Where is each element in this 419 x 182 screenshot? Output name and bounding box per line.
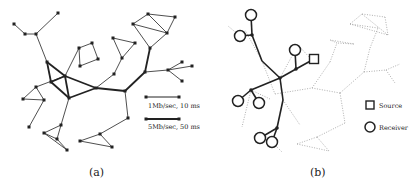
router-node xyxy=(113,73,116,76)
router-node xyxy=(28,126,31,129)
router-node xyxy=(57,12,60,15)
router-node xyxy=(64,75,67,78)
thick-link xyxy=(69,88,96,98)
dotted-link xyxy=(330,43,337,62)
thin-link xyxy=(14,24,25,34)
thick-link xyxy=(51,76,65,82)
router-node xyxy=(43,99,46,102)
legend-source-label: Source xyxy=(379,102,402,110)
network-diagram: 1Mb/sec, 10 ms 5Mb/sec, 50 ms (a) Source… xyxy=(0,0,419,182)
router-node xyxy=(22,98,25,101)
thick-link xyxy=(96,88,125,91)
router-node xyxy=(181,61,184,64)
caption-a: (a) xyxy=(89,166,104,179)
router-node xyxy=(147,13,150,16)
dotted-link xyxy=(297,137,317,144)
router-node xyxy=(35,33,38,36)
receiver-circle-icon xyxy=(255,133,266,144)
thin-link xyxy=(100,118,128,134)
square-icon xyxy=(366,101,374,109)
router-node xyxy=(60,124,63,127)
router-node xyxy=(112,37,115,40)
thin-link xyxy=(79,48,80,66)
router-node xyxy=(134,42,137,45)
dotted-link xyxy=(386,64,400,70)
junction-node xyxy=(249,88,253,92)
router-node xyxy=(97,58,100,61)
dotted-link xyxy=(362,14,385,17)
router-node xyxy=(99,133,102,136)
router-node xyxy=(191,65,194,68)
thin-link xyxy=(113,38,135,43)
dotted-link xyxy=(330,40,337,43)
router-node xyxy=(56,138,59,141)
thin-link xyxy=(36,13,58,34)
thin-link xyxy=(133,14,148,24)
dotted-link xyxy=(262,61,275,94)
thin-link xyxy=(80,134,100,141)
source-square-icon xyxy=(310,55,319,64)
thin-link xyxy=(23,99,44,100)
receiver-circle-icon xyxy=(267,137,278,148)
thin-link xyxy=(57,139,67,150)
thin-link xyxy=(80,59,98,66)
caption-b: (b) xyxy=(310,166,326,179)
router-node xyxy=(13,23,16,26)
thin-link xyxy=(150,33,167,48)
dotted-link xyxy=(317,137,329,151)
legend-receiver-label: Receiver xyxy=(379,124,409,132)
router-node xyxy=(78,47,81,50)
router-node xyxy=(181,80,184,83)
dotted-link xyxy=(312,62,330,88)
router-node xyxy=(91,42,94,45)
thick-link xyxy=(145,48,150,72)
router-node xyxy=(132,23,135,26)
multicast-tree-links xyxy=(238,15,314,142)
dotted-link xyxy=(350,24,378,28)
router-node xyxy=(127,117,130,120)
dotted-link xyxy=(350,14,362,24)
dotted-link xyxy=(275,88,312,94)
thin-link xyxy=(29,100,44,127)
dotted-link xyxy=(362,14,388,35)
router-node xyxy=(149,47,152,50)
dotted-link xyxy=(337,43,354,44)
circle-icon xyxy=(365,122,375,132)
router-node xyxy=(79,65,82,68)
receiver-circle-icon xyxy=(246,10,257,21)
thin-link xyxy=(168,70,182,81)
receiver-nodes xyxy=(233,10,301,148)
thick-links xyxy=(47,48,150,98)
router-node xyxy=(46,61,49,64)
thin-link xyxy=(36,34,47,62)
thick-link xyxy=(125,72,145,91)
thin-link xyxy=(113,38,122,58)
dotted-link xyxy=(312,88,340,93)
tree-link xyxy=(252,35,262,61)
thin-link xyxy=(122,43,135,58)
dotted-link xyxy=(386,70,395,83)
dotted-link xyxy=(340,93,345,123)
tree-link xyxy=(251,78,280,90)
source-node xyxy=(310,55,319,64)
router-node xyxy=(66,149,69,152)
thin-link xyxy=(114,58,122,74)
junction-node xyxy=(250,33,254,37)
receiver-circle-icon xyxy=(254,98,265,109)
receiver-circle-icon xyxy=(233,96,244,107)
thin-link xyxy=(92,43,98,59)
dotted-link xyxy=(317,123,345,137)
dotted-link xyxy=(283,100,300,125)
router-node xyxy=(121,57,124,60)
legend-node-icon xyxy=(178,118,181,121)
panel-b-multicast-tree: Source Receiver (b) xyxy=(228,10,409,180)
junction-node xyxy=(294,67,298,71)
legend-node-icon xyxy=(145,96,148,99)
router-node xyxy=(144,71,147,74)
junction-node xyxy=(275,126,279,130)
router-node xyxy=(111,146,114,149)
router-node xyxy=(124,90,127,93)
dotted-link xyxy=(340,72,364,93)
thin-link xyxy=(57,125,61,139)
thin-link xyxy=(61,98,69,125)
